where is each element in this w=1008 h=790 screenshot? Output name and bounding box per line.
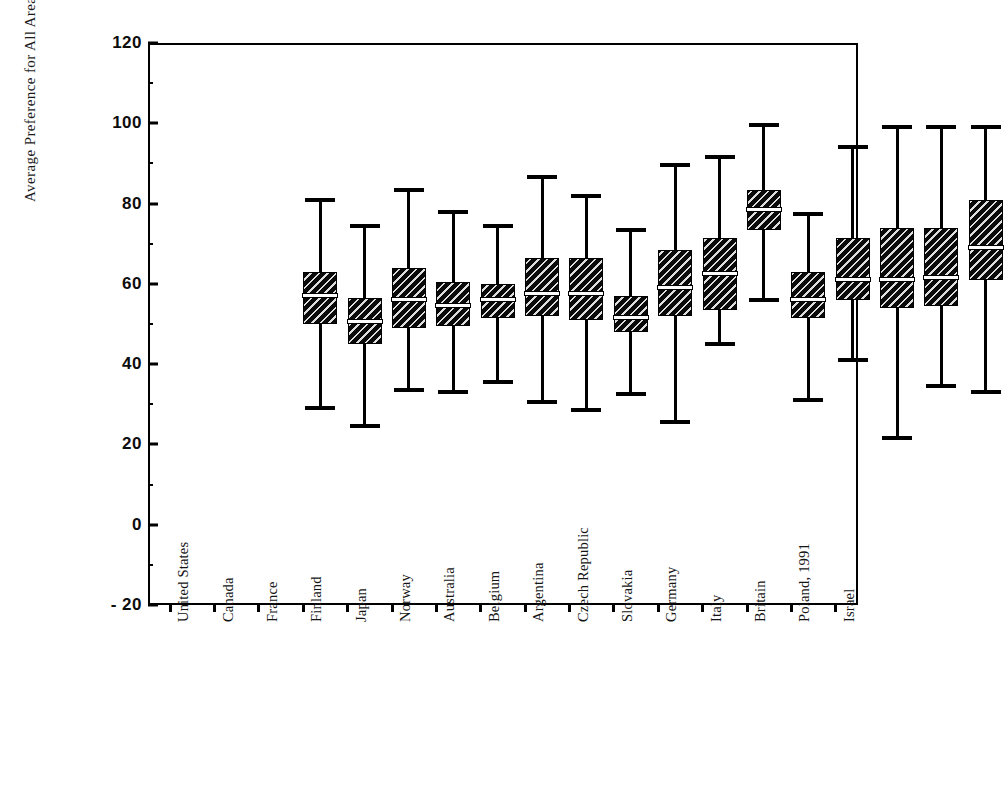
box-plot-item[interactable] bbox=[964, 45, 1008, 607]
y-axis-minor-tick bbox=[148, 162, 153, 164]
y-axis-tick-label: - 20 bbox=[78, 595, 142, 615]
y-axis-tick-mark bbox=[148, 122, 158, 125]
box-plot-item[interactable] bbox=[742, 45, 786, 607]
plot-area bbox=[148, 43, 858, 605]
x-axis-tick-mark bbox=[612, 603, 615, 612]
x-axis-tick-mark bbox=[169, 603, 172, 612]
x-axis-tick-mark bbox=[213, 603, 216, 612]
box-plot-item[interactable] bbox=[431, 45, 475, 607]
median-line bbox=[436, 304, 470, 307]
median-line bbox=[969, 246, 1003, 249]
box-iqr bbox=[880, 228, 914, 308]
box-iqr bbox=[569, 258, 603, 320]
y-axis-tick-label: 120 bbox=[78, 33, 142, 53]
whisker-cap-lower bbox=[571, 408, 601, 412]
x-axis-tick-mark bbox=[391, 603, 394, 612]
median-line bbox=[791, 298, 825, 301]
x-axis-category-label: France bbox=[264, 581, 281, 622]
whisker-cap-upper bbox=[571, 194, 601, 198]
median-line bbox=[569, 292, 603, 295]
box-plot-item[interactable] bbox=[875, 45, 919, 607]
x-axis-tick-mark bbox=[790, 603, 793, 612]
whisker-cap-upper bbox=[660, 163, 690, 167]
whisker-cap-upper bbox=[749, 123, 779, 127]
whisker-cap-upper bbox=[394, 188, 424, 192]
x-axis-category-label: Israel bbox=[841, 589, 858, 622]
whisker-cap-upper bbox=[705, 155, 735, 159]
x-axis-category-label: United States bbox=[175, 542, 192, 622]
y-axis-tick-mark bbox=[148, 523, 158, 526]
median-line bbox=[836, 278, 870, 281]
box-iqr bbox=[658, 250, 692, 316]
whisker-cap-upper bbox=[350, 224, 380, 228]
median-line bbox=[303, 294, 337, 297]
whisker-cap-lower bbox=[705, 342, 735, 346]
whisker-cap-lower bbox=[971, 390, 1001, 394]
x-axis-category-label: Belgium bbox=[486, 571, 503, 622]
y-axis-minor-tick bbox=[148, 564, 153, 566]
x-axis-category-label: Australia bbox=[441, 567, 458, 622]
box-plot-item[interactable] bbox=[786, 45, 830, 607]
whisker-cap-lower bbox=[305, 406, 335, 410]
median-line bbox=[703, 272, 737, 275]
whisker-cap-lower bbox=[616, 392, 646, 396]
box-plot-item[interactable] bbox=[342, 45, 386, 607]
y-axis-minor-tick bbox=[148, 403, 153, 405]
y-axis-title: Average Preference for All Area bbox=[22, 0, 48, 202]
box-iqr bbox=[836, 238, 870, 300]
x-axis-category-label: Italy bbox=[708, 594, 725, 622]
y-axis-tick-mark bbox=[148, 42, 158, 45]
y-axis-minor-tick bbox=[148, 243, 153, 245]
whisker-cap-lower bbox=[660, 420, 690, 424]
x-axis-tick-mark bbox=[701, 603, 704, 612]
box-plot-item[interactable] bbox=[564, 45, 608, 607]
box-plot-item[interactable] bbox=[831, 45, 875, 607]
median-line bbox=[614, 316, 648, 319]
box-iqr bbox=[303, 272, 337, 324]
whisker-cap-lower bbox=[483, 380, 513, 384]
box-plot-item[interactable] bbox=[609, 45, 653, 607]
y-axis-tick-label: 60 bbox=[78, 274, 142, 294]
y-axis-minor-tick bbox=[148, 484, 153, 486]
whisker-cap-upper bbox=[793, 212, 823, 216]
median-line bbox=[880, 278, 914, 281]
y-axis-tick-label: 40 bbox=[78, 354, 142, 374]
y-axis-tick-labels: - 20020406080100120 bbox=[66, 0, 142, 790]
box-plot-item[interactable] bbox=[298, 45, 342, 607]
x-axis-category-label: Finland bbox=[308, 576, 325, 622]
box-plot-item[interactable] bbox=[476, 45, 520, 607]
median-line bbox=[525, 292, 559, 295]
median-line bbox=[658, 286, 692, 289]
x-axis-tick-mark bbox=[746, 603, 749, 612]
y-axis-tick-label: 20 bbox=[78, 434, 142, 454]
whisker-cap-upper bbox=[838, 145, 868, 149]
y-axis-minor-tick bbox=[148, 323, 153, 325]
box-iqr bbox=[969, 200, 1003, 280]
x-axis-category-label: Slovakia bbox=[619, 570, 636, 622]
x-axis-category-label: Argentina bbox=[530, 562, 547, 622]
whisker-cap-lower bbox=[882, 436, 912, 440]
median-line bbox=[747, 208, 781, 211]
y-axis-tick-mark bbox=[148, 202, 158, 205]
x-axis-category-label: Norway bbox=[397, 574, 414, 622]
whisker-cap-lower bbox=[838, 358, 868, 362]
whisker-cap-upper bbox=[483, 224, 513, 228]
x-axis-tick-mark bbox=[435, 603, 438, 612]
x-axis-category-label: Britain bbox=[752, 580, 769, 622]
x-axis-tick-mark bbox=[524, 603, 527, 612]
box-plot-item[interactable] bbox=[520, 45, 564, 607]
whisker-cap-lower bbox=[926, 384, 956, 388]
box-iqr bbox=[791, 272, 825, 318]
box-plot-item[interactable] bbox=[919, 45, 963, 607]
whisker-cap-lower bbox=[749, 298, 779, 302]
y-axis-tick-mark bbox=[148, 282, 158, 285]
box-plot-item[interactable] bbox=[653, 45, 697, 607]
box-plot-item[interactable] bbox=[387, 45, 431, 607]
x-axis-category-label: Poland, 1991 bbox=[796, 543, 813, 622]
x-axis-tick-mark bbox=[479, 603, 482, 612]
whisker-cap-upper bbox=[882, 125, 912, 129]
box-plot-item[interactable] bbox=[697, 45, 741, 607]
whisker-cap-upper bbox=[926, 125, 956, 129]
median-line bbox=[924, 276, 958, 279]
